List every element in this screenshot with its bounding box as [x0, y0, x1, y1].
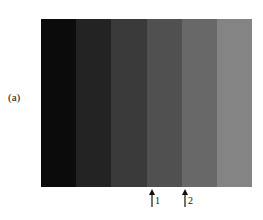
gray-level-bands — [41, 19, 252, 187]
band-6 — [217, 19, 252, 187]
marker-label: 1 — [155, 196, 160, 206]
band-3 — [111, 19, 146, 187]
panel-label: (a) — [8, 91, 20, 103]
marker-2: 2 — [181, 189, 201, 209]
band-5 — [182, 19, 217, 187]
marker-label: 2 — [188, 196, 193, 206]
band-4 — [147, 19, 182, 187]
band-1 — [41, 19, 76, 187]
marker-1: 1 — [148, 189, 168, 209]
band-2 — [76, 19, 111, 187]
